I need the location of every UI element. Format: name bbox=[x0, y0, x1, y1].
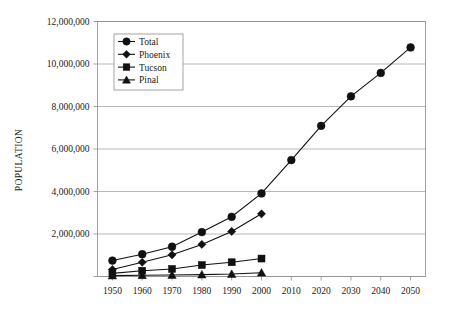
data-point-marker bbox=[317, 122, 325, 130]
legend-label: Total bbox=[139, 37, 159, 47]
y-axis-tick-label: 4,000,000 bbox=[52, 187, 90, 197]
data-point-marker bbox=[168, 243, 176, 251]
data-point-marker bbox=[228, 213, 236, 221]
data-point-marker bbox=[228, 259, 235, 266]
x-axis-tick-label: 1970 bbox=[163, 286, 182, 296]
legend-label: Pinal bbox=[139, 75, 159, 85]
chart-legend: TotalPhoenixTucsonPinal bbox=[114, 34, 183, 90]
x-axis-tick-label: 2000 bbox=[252, 286, 271, 296]
series-line bbox=[112, 259, 261, 274]
data-point-marker bbox=[407, 44, 415, 52]
x-axis-tick-label: 1990 bbox=[222, 286, 241, 296]
x-axis-tick-label: 1960 bbox=[133, 286, 152, 296]
series-line bbox=[112, 273, 261, 276]
y-axis-title: POPULATION bbox=[14, 129, 24, 192]
legend-label: Tucson bbox=[139, 63, 167, 73]
data-point-marker bbox=[168, 251, 176, 259]
data-point-marker bbox=[258, 190, 266, 198]
y-axis-tick-label: 10,000,000 bbox=[47, 59, 90, 69]
y-axis-tick-label: 8,000,000 bbox=[52, 102, 90, 112]
chart-canvas: 2,000,0004,000,0006,000,0008,000,00010,0… bbox=[0, 0, 451, 313]
data-point-marker bbox=[347, 92, 355, 100]
x-axis-tick-labels: 1950196019701980199020002010202020302040… bbox=[103, 286, 420, 296]
data-point-marker bbox=[258, 255, 265, 262]
data-point-marker bbox=[377, 69, 385, 77]
y-axis-tick-label: 12,000,000 bbox=[47, 17, 90, 27]
data-point-marker bbox=[198, 262, 205, 269]
legend-marker-circle-icon bbox=[123, 38, 130, 45]
data-point-marker bbox=[138, 250, 146, 258]
data-point-marker bbox=[198, 240, 206, 248]
x-axis-tick-label: 2010 bbox=[282, 286, 301, 296]
x-axis-tick-label: 1950 bbox=[103, 286, 122, 296]
series-pinal bbox=[108, 268, 265, 279]
y-axis-tick-label: 2,000,000 bbox=[52, 229, 90, 239]
legend-label: Phoenix bbox=[139, 50, 170, 60]
data-point-marker bbox=[198, 228, 206, 236]
x-axis-tick-label: 2050 bbox=[401, 286, 420, 296]
x-axis-tick-label: 2030 bbox=[341, 286, 360, 296]
legend-marker-square-icon bbox=[123, 64, 130, 71]
x-axis-tick-label: 2040 bbox=[371, 286, 390, 296]
y-axis-tick-labels: 2,000,0004,000,0006,000,0008,000,00010,0… bbox=[47, 17, 90, 240]
data-point-marker bbox=[138, 258, 146, 266]
y-axis-tick-label: 6,000,000 bbox=[52, 144, 90, 154]
data-point-marker bbox=[109, 257, 117, 265]
x-axis-tick-marks bbox=[112, 277, 410, 281]
x-axis-tick-label: 2020 bbox=[312, 286, 331, 296]
data-point-marker bbox=[287, 156, 295, 164]
series-phoenix bbox=[108, 210, 265, 274]
x-axis-tick-label: 1980 bbox=[192, 286, 211, 296]
population-line-chart: 2,000,0004,000,0006,000,0008,000,00010,0… bbox=[0, 0, 451, 313]
data-point-marker bbox=[257, 210, 265, 218]
